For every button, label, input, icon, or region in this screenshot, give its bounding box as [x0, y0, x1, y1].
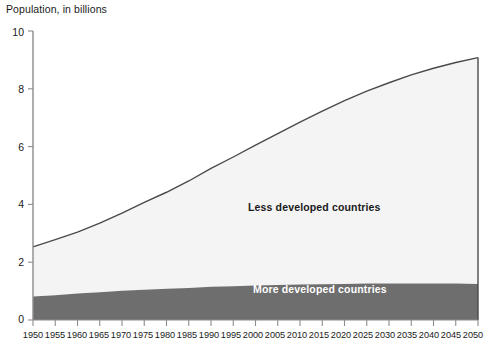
chart-title: Population, in billions — [6, 3, 107, 15]
area-less-developed — [33, 58, 478, 297]
x-tick-label-2050: 2050 — [453, 330, 493, 340]
y-tick-label-10: 10 — [2, 26, 24, 38]
y-tick-label-4: 4 — [2, 198, 24, 210]
y-tick-label-6: 6 — [2, 141, 24, 153]
y-tick-label-2: 2 — [2, 256, 24, 268]
series-label-less-developed: Less developed countries — [248, 201, 381, 213]
population-area-chart: Population, in billions 10 8 6 4 2 0 195… — [0, 0, 503, 348]
y-tick-label-0: 0 — [2, 313, 24, 325]
plot-area — [0, 0, 503, 348]
series-label-more-developed: More developed countries — [253, 283, 387, 295]
y-tick-label-8: 8 — [2, 83, 24, 95]
